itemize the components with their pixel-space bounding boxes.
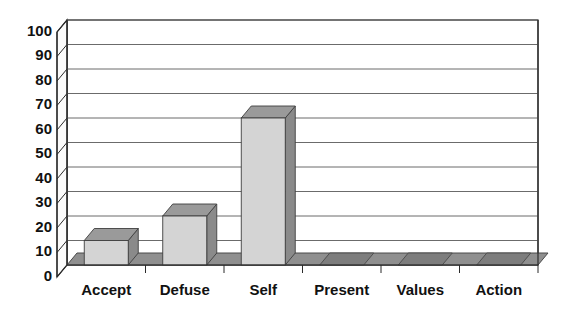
x-axis-tick-label: Action xyxy=(475,281,522,298)
bar-top-face xyxy=(163,204,217,216)
bar-accept xyxy=(84,229,138,266)
bar-front-face xyxy=(163,216,207,265)
y-axis-tick-label: 60 xyxy=(35,120,52,137)
x-axis-tick-label: Present xyxy=(314,281,369,298)
y-axis-tick-label: 40 xyxy=(35,169,52,186)
y-axis-tick-label: 30 xyxy=(35,193,52,210)
bar-top-face xyxy=(84,229,138,241)
bar-zero-footprint xyxy=(398,253,452,265)
bar-front-face xyxy=(84,241,128,266)
y-axis-tick-label: 70 xyxy=(35,95,52,112)
y-axis-tick-label: 90 xyxy=(35,46,52,63)
x-axis-tick-label: Values xyxy=(396,281,444,298)
bar-side-face xyxy=(285,106,295,265)
bar-values xyxy=(398,253,452,265)
y-axis-tick-label: 0 xyxy=(44,267,52,284)
x-axis-tick-label: Self xyxy=(249,281,278,298)
bar-chart: 0102030405060708090100 AcceptDefuseSelfP… xyxy=(0,0,564,318)
bar-top-face xyxy=(241,106,295,118)
bar-front-face xyxy=(241,118,285,265)
y-axis-tick-label: 80 xyxy=(35,71,52,88)
x-axis-tick-label: Defuse xyxy=(160,281,210,298)
bar-action xyxy=(477,253,531,265)
chart-canvas: 0102030405060708090100 AcceptDefuseSelfP… xyxy=(0,0,564,318)
bar-self xyxy=(241,106,295,265)
x-axis-tick-label: Accept xyxy=(81,281,131,298)
bar-present xyxy=(320,253,374,265)
y-axis-tick-label: 20 xyxy=(35,218,52,235)
bar-zero-footprint xyxy=(477,253,531,265)
y-axis-tick-label: 50 xyxy=(35,144,52,161)
bar-defuse xyxy=(163,204,217,265)
y-axis-tick-label: 100 xyxy=(27,22,52,39)
plot-floor xyxy=(67,253,548,265)
y-axis-tick-label: 10 xyxy=(35,242,52,259)
bar-zero-footprint xyxy=(320,253,374,265)
